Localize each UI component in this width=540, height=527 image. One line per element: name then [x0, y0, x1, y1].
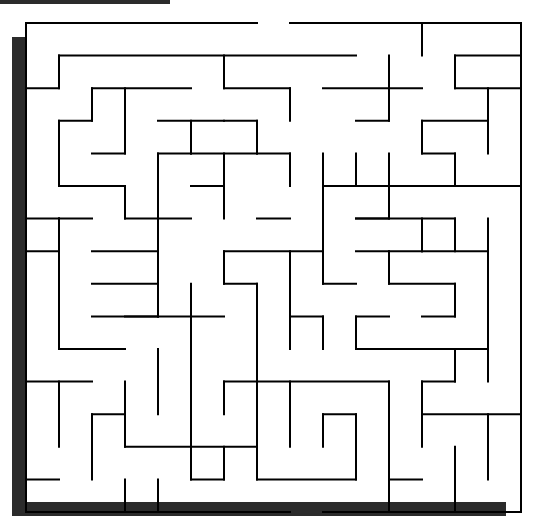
- maze-background: [26, 23, 521, 502]
- maze-board[interactable]: [0, 0, 540, 527]
